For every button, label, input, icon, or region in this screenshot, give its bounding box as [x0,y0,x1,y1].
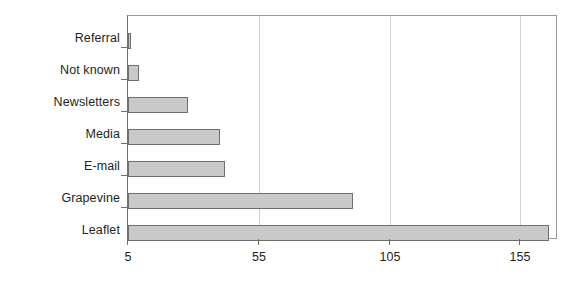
y-axis-tick-label: Media [0,127,120,141]
x-axis-tick-mark [258,239,259,245]
gridline [390,16,391,238]
y-axis-tick-label: E-mail [0,159,120,173]
y-axis-tick-label: Leaflet [0,223,120,237]
x-axis-tick-label: 5 [125,250,132,265]
x-axis-tick-label: 155 [510,250,531,265]
y-axis-tick-label: Grapevine [0,191,120,205]
x-axis-tick-label: 55 [252,250,266,265]
x-axis-tick-mark [389,239,390,245]
bar-not-known [128,65,139,81]
bar-newsletters [128,97,188,113]
bar-leaflet [128,225,549,241]
y-axis-tick-label: Newsletters [0,95,120,109]
bar-referral [128,33,131,49]
gridline [520,16,521,238]
x-axis-tick-mark [519,239,520,245]
y-axis-labels: Referral Not known Newsletters Media E-m… [0,15,120,239]
y-axis-tick-label: Not known [0,63,120,77]
bar-chart: Referral Not known Newsletters Media E-m… [0,0,588,285]
y-axis-tick-label: Referral [0,31,120,45]
bar-e-mail [128,161,225,177]
bar-media [128,129,220,145]
plot-area [127,15,557,239]
x-axis-tick-mark [127,239,128,245]
x-axis-tick-label: 105 [380,250,401,265]
bar-grapevine [128,193,353,209]
